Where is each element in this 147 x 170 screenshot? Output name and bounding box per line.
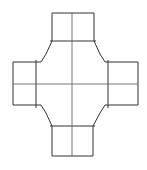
cross-diagram bbox=[0, 0, 147, 170]
cross-outline bbox=[13, 13, 138, 156]
